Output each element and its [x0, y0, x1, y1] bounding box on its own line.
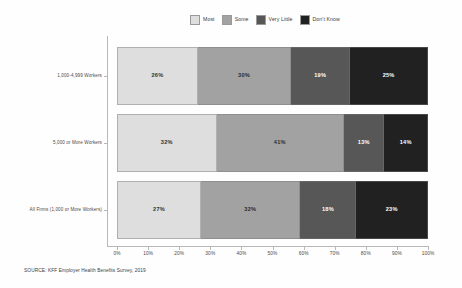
bar-value-label: 14%	[400, 140, 412, 146]
y-axis-line	[107, 36, 108, 247]
x-tick-mark	[241, 247, 242, 250]
x-tick-label: 60%	[289, 251, 319, 256]
x-tick-mark	[179, 247, 180, 250]
legend-swatch-very-little	[256, 15, 266, 25]
x-tick-label: 20%	[164, 251, 194, 256]
bar-value-label: 23%	[386, 207, 398, 213]
bar-value-label: 32%	[161, 140, 173, 146]
bar-value-label: 32%	[244, 207, 256, 213]
plot-area: 26%30%19%25%32%41%13%14%27%32%18%23%	[117, 38, 428, 245]
x-tick-label: 0%	[102, 251, 132, 256]
y-tick-label: All Firms (1,000 or More Workers)	[30, 207, 102, 212]
bar-value-label: 18%	[322, 207, 334, 213]
bar-segment: 30%	[198, 47, 291, 105]
bar-segment: 26%	[117, 47, 198, 105]
bar-segment: 23%	[356, 181, 428, 239]
x-tick-mark	[148, 247, 149, 250]
bar-value-label: 13%	[358, 140, 370, 146]
legend-item-most: Most	[190, 15, 215, 25]
bar-segment: 41%	[217, 114, 345, 172]
bar-value-label: 27%	[153, 207, 165, 213]
bar-value-label: 41%	[274, 140, 286, 146]
x-tick-mark	[428, 247, 429, 250]
x-tick-mark	[210, 247, 211, 250]
legend-item-very-little: Very Little	[256, 15, 293, 25]
x-tick-label: 10%	[133, 251, 163, 256]
legend-label-very-little: Very Little	[269, 17, 293, 22]
legend-item-dont-know: Don't Know	[300, 15, 340, 25]
y-tick-label: 1,000-4,999 Workers	[57, 73, 102, 78]
x-tick-mark	[366, 247, 367, 250]
x-tick-mark	[335, 247, 336, 250]
y-tick-label: 5,000 or More Workers	[53, 140, 102, 145]
y-tick-mark	[104, 76, 107, 77]
chart-legend: Most Some Very Little Don't Know	[190, 13, 380, 27]
stacked-bar-chart: Most Some Very Little Don't Know 26%30%1…	[0, 0, 462, 288]
legend-label-dont-know: Don't Know	[313, 17, 340, 22]
x-tick-label: 50%	[258, 251, 288, 256]
bar-value-label: 25%	[383, 73, 395, 79]
bar-segment: 25%	[350, 47, 428, 105]
x-axis-line	[107, 246, 429, 247]
x-tick-label: 40%	[226, 251, 256, 256]
x-tick-label: 70%	[320, 251, 350, 256]
bar-value-label: 26%	[152, 73, 164, 79]
x-tick-label: 30%	[195, 251, 225, 256]
x-tick-mark	[304, 247, 305, 250]
x-tick-label: 100%	[413, 251, 443, 256]
bar-segment: 32%	[201, 181, 301, 239]
bar-segment: 19%	[291, 47, 350, 105]
legend-swatch-dont-know	[300, 15, 310, 25]
x-tick-mark	[397, 247, 398, 250]
bar-row: 32%41%13%14%	[117, 114, 428, 172]
legend-label-some: Some	[235, 17, 249, 22]
x-tick-mark	[273, 247, 274, 250]
x-tick-mark	[117, 247, 118, 250]
bar-segment: 32%	[117, 114, 217, 172]
bar-value-label: 19%	[314, 73, 326, 79]
y-tick-mark	[104, 210, 107, 211]
bar-segment: 27%	[117, 181, 201, 239]
y-tick-mark	[104, 143, 107, 144]
x-tick-label: 80%	[351, 251, 381, 256]
bar-row: 26%30%19%25%	[117, 47, 428, 105]
bar-row: 27%32%18%23%	[117, 181, 428, 239]
source-note: SOURCE: KFF Employer Health Benefits Sur…	[24, 268, 146, 273]
legend-swatch-some	[222, 15, 232, 25]
bar-segment: 13%	[344, 114, 384, 172]
x-tick-label: 90%	[382, 251, 412, 256]
bar-segment: 18%	[300, 181, 356, 239]
legend-label-most: Most	[203, 17, 215, 22]
legend-swatch-most	[190, 15, 200, 25]
bar-value-label: 30%	[238, 73, 250, 79]
legend-item-some: Some	[222, 15, 249, 25]
bar-segment: 14%	[384, 114, 428, 172]
